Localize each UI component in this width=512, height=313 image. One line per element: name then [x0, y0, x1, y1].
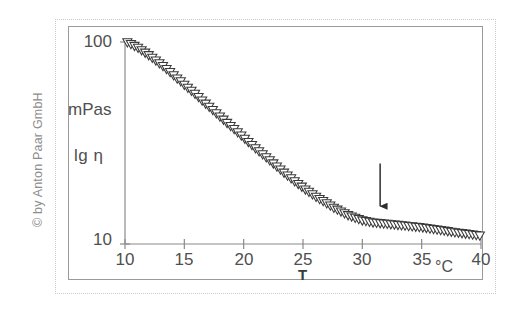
figure-container: © by Anton Paar GmbH 100 10 mPas lg η 10… — [0, 0, 512, 313]
x-tick-label-10: 10 — [99, 250, 151, 270]
x-tick-label-15: 15 — [158, 250, 210, 270]
y-axis-label: lg η — [74, 146, 103, 166]
x-tick-label-30: 30 — [336, 250, 388, 270]
x-tick-label-40: 40 — [455, 250, 507, 270]
y-tick-label-100: 100 — [52, 32, 112, 52]
data-markers — [123, 39, 485, 240]
x-axis-label: T — [298, 266, 307, 283]
x-tick-label-20: 20 — [218, 250, 270, 270]
y-tick-label-10: 10 — [52, 230, 112, 250]
y-axis-unit: mPas — [68, 100, 111, 120]
x-axis-unit: °C — [435, 258, 453, 276]
